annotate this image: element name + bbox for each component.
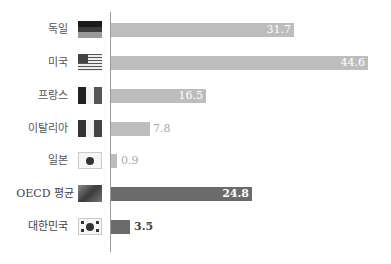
category-label: 프랑스 — [0, 89, 68, 103]
bar-row-usa: 미국 44.6 — [0, 56, 391, 70]
category-label: 대한민국 — [0, 220, 68, 234]
bar-japan — [111, 154, 117, 168]
value-label: 16.5 — [111, 89, 203, 103]
italy-flag-icon — [78, 120, 102, 137]
category-label: 일본 — [0, 154, 68, 168]
bar-row-oecd-average: OECD 평균 24.8 — [0, 187, 391, 201]
value-label: 3.5 — [134, 220, 153, 234]
korea-flag-icon — [78, 218, 102, 235]
category-label: 미국 — [0, 56, 68, 70]
bar-korea — [111, 220, 130, 234]
value-label: 44.6 — [111, 56, 365, 70]
value-label: 7.8 — [153, 122, 171, 136]
bar-row-korea: 대한민국 3.5 — [0, 220, 391, 234]
bar-italy — [111, 122, 150, 136]
value-label: 24.8 — [111, 187, 249, 201]
oecd-image-icon — [78, 185, 102, 202]
value-label: 0.9 — [121, 154, 139, 168]
japan-flag-icon — [78, 152, 102, 169]
bar-row-italy: 이탈리아 7.8 — [0, 122, 391, 136]
category-label: 독일 — [0, 23, 68, 37]
germany-flag-icon — [78, 21, 102, 38]
france-flag-icon — [78, 87, 102, 104]
bar-row-germany: 독일 31.7 — [0, 23, 391, 37]
bar-row-japan: 일본 0.9 — [0, 154, 391, 168]
usa-flag-icon — [78, 54, 102, 71]
value-label: 31.7 — [111, 23, 291, 37]
bar-row-france: 프랑스 16.5 — [0, 89, 391, 103]
category-label: 이탈리아 — [0, 122, 68, 136]
category-label: OECD 평균 — [0, 187, 74, 201]
